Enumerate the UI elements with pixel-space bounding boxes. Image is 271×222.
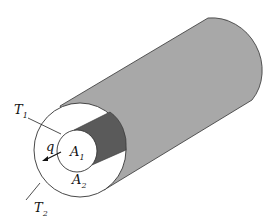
cylinder-diagram: T1 q A1 A2 T2 — [0, 0, 271, 222]
label-q: q — [46, 139, 54, 154]
t2-leader — [26, 183, 40, 200]
label-t1: T1 — [14, 102, 28, 120]
label-t2: T2 — [34, 200, 48, 218]
